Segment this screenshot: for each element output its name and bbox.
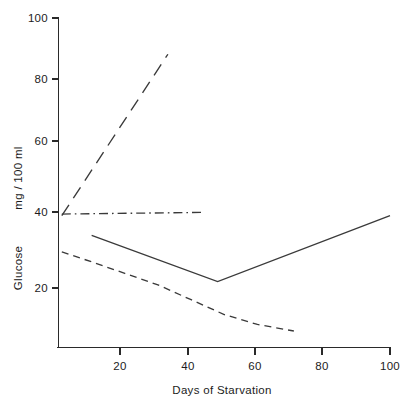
- y-tick-label-20: 20: [35, 282, 48, 294]
- y-axis-title-quantity: Glucose: [12, 246, 24, 290]
- series-group: [62, 54, 390, 331]
- y-tick-label-40: 40: [35, 206, 48, 218]
- y-tick-marks: [52, 18, 58, 288]
- x-tick-marks: [120, 348, 390, 355]
- series-flat-dash-dot: [62, 212, 201, 214]
- y-tick-label-80: 80: [35, 73, 48, 85]
- y-tick-label-60: 60: [35, 135, 48, 147]
- x-tick-label-20: 20: [113, 360, 126, 372]
- y-tick-label-100: 100: [28, 12, 48, 24]
- x-tick-label-60: 60: [248, 360, 261, 372]
- x-tick-label-80: 80: [315, 360, 328, 372]
- y-axis-title-units: mg / 100 ml: [12, 146, 24, 209]
- x-tick-label-100: 100: [380, 360, 400, 372]
- starvation-glucose-chart: 100 80 60 40 20 20 40 60 80 100 Days of …: [0, 0, 407, 399]
- x-tick-label-40: 40: [181, 360, 194, 372]
- x-axis-title: Days of Starvation: [172, 384, 271, 396]
- chart-canvas: 100 80 60 40 20 20 40 60 80 100 Days of …: [0, 0, 407, 399]
- series-declining-short-dash: [62, 252, 294, 331]
- series-rising-long-dash: [62, 54, 168, 215]
- series-v-shaped-solid: [92, 216, 390, 282]
